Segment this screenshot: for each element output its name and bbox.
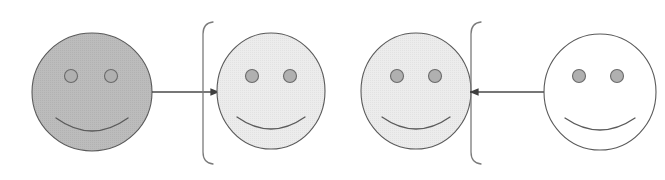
face-4-eye-right-icon (611, 70, 624, 83)
smiley-arrow-diagram (0, 0, 665, 180)
face-2-head-icon (217, 33, 325, 149)
face-2-eye-left-icon (246, 70, 259, 83)
face-4-head-icon (544, 34, 656, 150)
left-bracket-icon (203, 22, 213, 164)
face-1-group (32, 33, 152, 151)
face-3-eye-right-icon (429, 70, 442, 83)
face-1-eye-right-icon (105, 70, 118, 83)
face-4-group (544, 34, 656, 150)
face-3-head-icon (361, 33, 471, 149)
face-1-eye-left-icon (65, 70, 78, 83)
face-4-eye-left-icon (573, 70, 586, 83)
face-2-group (217, 33, 325, 149)
face-1-head-icon (32, 33, 152, 151)
face-2-eye-right-icon (284, 70, 297, 83)
bracket-left-group (203, 22, 213, 164)
left-bracket-icon (471, 22, 481, 164)
face-3-group (361, 33, 471, 149)
bracket-right-group (471, 22, 481, 164)
face-3-eye-left-icon (391, 70, 404, 83)
diagram-canvas: Four smiley faces with arrows and bracke… (0, 0, 665, 180)
